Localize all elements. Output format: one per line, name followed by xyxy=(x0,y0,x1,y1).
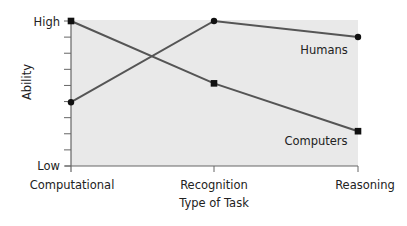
x-tick-recognition: Recognition xyxy=(180,178,248,192)
series-label-humans: Humans xyxy=(300,43,347,57)
y-tick-high: High xyxy=(34,15,60,29)
series-label-computers: Computers xyxy=(284,134,347,148)
marker-humans xyxy=(355,34,361,40)
marker-humans xyxy=(68,99,74,105)
y-axis-label: Ability xyxy=(20,64,34,100)
marker-computers xyxy=(355,128,362,135)
x-tick-reasoning: Reasoning xyxy=(335,178,395,192)
x-axis-ticks xyxy=(214,166,358,172)
marker-computers xyxy=(211,80,218,87)
marker-computers xyxy=(68,18,75,25)
marker-humans xyxy=(211,18,217,24)
x-axis-label: Type of Task xyxy=(178,196,249,210)
y-tick-low: Low xyxy=(37,159,60,173)
y-axis-ticks xyxy=(64,21,71,166)
chart: High Low Ability Computational Recogniti… xyxy=(0,0,407,226)
x-tick-computational: Computational xyxy=(30,178,115,192)
